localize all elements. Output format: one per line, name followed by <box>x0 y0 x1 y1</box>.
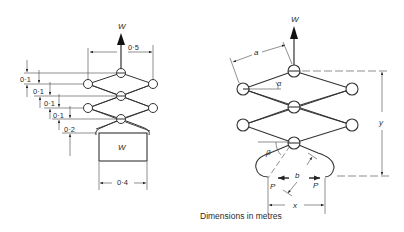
link-length-label: a <box>254 48 259 57</box>
dim-v-2: 0·1 <box>33 87 44 96</box>
span-x-label: x <box>292 201 298 210</box>
lazy-tongs-diagram: W 0·5 W 0·4 0·1 0·1 0·1 0·1 0·2 <box>0 0 404 232</box>
dim-v-1: 0·1 <box>20 75 31 84</box>
figure-caption: Dimensions in metres <box>200 211 350 221</box>
force-left-label: P <box>270 182 276 191</box>
dim-width-box: 0·4 <box>117 178 128 187</box>
right-dimensions <box>230 42 392 214</box>
load-label-top-left: W <box>118 22 127 31</box>
figure-canvas: W 0·5 W 0·4 0·1 0·1 0·1 0·1 0·2 <box>0 0 404 232</box>
left-dimensions <box>24 45 153 190</box>
angle-beta-label: β <box>265 148 271 157</box>
hook-length-label: b <box>295 171 300 180</box>
dim-v-3: 0·1 <box>44 99 55 108</box>
dim-v-5: 0·2 <box>64 125 75 134</box>
load-arrow-icon <box>290 26 298 39</box>
right-labels: W a α β b P P y x <box>254 15 384 210</box>
height-y-label: y <box>378 118 384 127</box>
load-label-top-right: W <box>291 15 300 24</box>
angle-alpha-label: α <box>277 79 282 88</box>
dim-width-top: 0·5 <box>128 43 139 52</box>
load-arrow-icon <box>117 33 125 45</box>
force-right-label: P <box>313 181 319 190</box>
dim-v-4: 0·1 <box>53 111 64 120</box>
